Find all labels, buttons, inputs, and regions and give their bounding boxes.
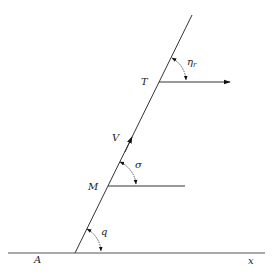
label-M: M [87, 181, 99, 192]
diagram-canvas: A x M T V q σ ηr [0, 0, 277, 274]
velocity-arrow [125, 137, 132, 152]
angle-sigma-arc [120, 162, 136, 184]
trajectory-line [75, 15, 192, 253]
label-q: q [101, 226, 107, 237]
label-eta-subscript: r [193, 61, 197, 69]
angle-q-arc [87, 229, 101, 251]
label-A: A [33, 254, 41, 265]
label-T: T [141, 76, 149, 87]
label-sigma: σ [135, 159, 143, 170]
label-V: V [112, 132, 121, 143]
label-x: x [248, 255, 254, 266]
label-eta: ηr [187, 56, 197, 69]
angle-eta-arc [172, 58, 186, 80]
